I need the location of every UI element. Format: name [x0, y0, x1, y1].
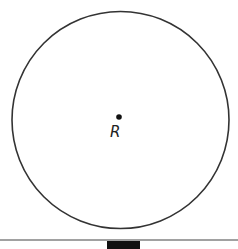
base-block [107, 241, 140, 249]
circle-outline [12, 12, 229, 229]
circle-diagram: R [0, 0, 238, 249]
center-point [116, 114, 122, 120]
center-point-label: R [110, 123, 120, 141]
